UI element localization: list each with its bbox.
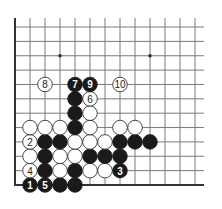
move-number-label: 9 (87, 79, 93, 90)
white-stone (98, 135, 113, 150)
star-point-icon (148, 54, 152, 58)
black-stone (128, 135, 143, 150)
black-stone (68, 120, 83, 135)
black-stone (68, 163, 83, 178)
black-stone-icon (53, 135, 68, 150)
black-stone (83, 149, 98, 164)
white-stone-move-2: 2 (23, 135, 38, 150)
black-stone-icon (143, 135, 158, 150)
white-stone (53, 120, 68, 135)
white-stone (23, 120, 38, 135)
move-number-label: 1 (27, 180, 33, 191)
white-stone-icon (83, 106, 98, 121)
white-stone (23, 149, 38, 164)
move-number-label: 8 (42, 79, 48, 90)
move-number-label: 7 (72, 79, 78, 90)
white-stone-icon (23, 120, 38, 135)
white-stone-move-10: 10 (113, 77, 128, 92)
black-stone-icon (68, 92, 83, 107)
black-stone-move-9: 9 (83, 77, 98, 92)
black-stone-icon (38, 149, 53, 164)
black-stone (68, 92, 83, 107)
white-stone-icon (83, 120, 98, 135)
white-stone-icon (128, 120, 143, 135)
white-stone (83, 106, 98, 121)
black-stone (38, 163, 53, 178)
black-stone-icon (68, 106, 83, 121)
white-stone (113, 120, 128, 135)
move-number-label: 6 (87, 94, 93, 105)
white-stone (68, 135, 83, 150)
white-stone (68, 149, 83, 164)
move-number-label: 3 (117, 166, 123, 177)
black-stone (68, 178, 83, 193)
black-stone (98, 149, 113, 164)
black-stone-icon (68, 178, 83, 193)
move-number-label: 10 (114, 79, 126, 90)
white-stone-move-4: 4 (23, 163, 38, 178)
black-stone-move-1: 1 (23, 178, 38, 193)
black-stone (68, 106, 83, 121)
black-stone-icon (68, 120, 83, 135)
white-stone (98, 163, 113, 178)
black-stone (38, 149, 53, 164)
go-board: 15432687910 (0, 0, 222, 209)
white-stone-icon (38, 120, 53, 135)
white-stone-icon (98, 135, 113, 150)
white-stone (128, 120, 143, 135)
white-stone-move-6: 6 (83, 92, 98, 107)
move-number-label: 4 (27, 166, 33, 177)
black-stone-move-5: 5 (38, 178, 53, 193)
star-point-icon (58, 54, 62, 58)
white-stone-icon (23, 149, 38, 164)
black-stone (113, 149, 128, 164)
white-stone-icon (68, 149, 83, 164)
white-stone-icon (113, 120, 128, 135)
black-stone (38, 135, 53, 150)
stones-layer: 15432687910 (23, 77, 158, 192)
black-stone (53, 135, 68, 150)
black-stone-move-7: 7 (68, 77, 83, 92)
white-stone-icon (98, 163, 113, 178)
white-stone (83, 163, 98, 178)
move-number-label: 5 (42, 180, 48, 191)
black-stone-icon (113, 149, 128, 164)
move-number-label: 2 (27, 137, 33, 148)
white-stone (53, 163, 68, 178)
white-stone-icon (53, 120, 68, 135)
white-stone-icon (83, 135, 98, 150)
black-stone (113, 135, 128, 150)
white-stone (53, 149, 68, 164)
black-stone-icon (113, 135, 128, 150)
white-stone (38, 120, 53, 135)
black-stone-icon (128, 135, 143, 150)
black-stone-icon (53, 178, 68, 193)
black-stone-icon (68, 163, 83, 178)
black-stone-icon (38, 135, 53, 150)
black-stone (53, 178, 68, 193)
white-stone-icon (83, 163, 98, 178)
black-stone-icon (98, 149, 113, 164)
black-stone (143, 135, 158, 150)
go-board-diagram: 15432687910 (0, 0, 222, 209)
black-stone-icon (38, 163, 53, 178)
white-stone (83, 120, 98, 135)
white-stone-icon (53, 149, 68, 164)
black-stone-icon (83, 149, 98, 164)
white-stone-icon (68, 135, 83, 150)
black-stone-move-3: 3 (113, 163, 128, 178)
white-stone-move-8: 8 (38, 77, 53, 92)
white-stone-icon (53, 163, 68, 178)
white-stone (83, 135, 98, 150)
